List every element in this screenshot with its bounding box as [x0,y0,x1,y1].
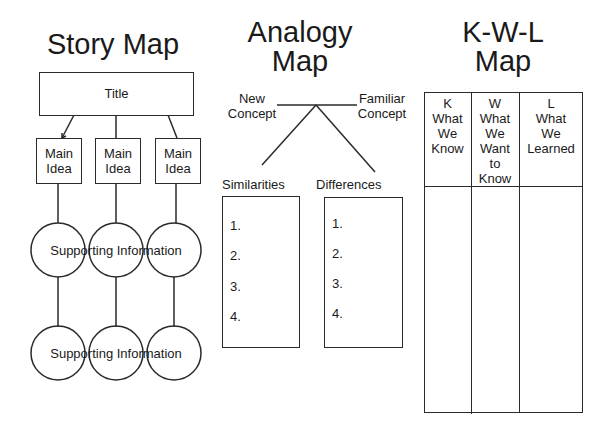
analogy-map-heading-2: Map [230,47,370,76]
kwl-column-w: W What We Want to Know [471,96,519,186]
main-idea-box-1: Main Idea [36,138,82,184]
main-idea-label: Main Idea [96,146,140,176]
similarity-item-4: 4. [230,309,241,324]
similarity-item-3: 3. [230,279,241,294]
difference-item-4: 4. [332,306,343,321]
kwl-k-letter: K [424,96,471,111]
kwl-map-heading-2: Map [433,47,573,76]
kwl-map-heading-1: K-W-L [433,18,573,47]
differences-label: Differences [316,177,396,192]
kwl-w-letter: W [471,96,519,111]
supporting-info-row-1: Supporting Information [30,243,202,258]
kwl-column-l: L What We Learned [519,96,583,156]
similarity-item-2: 2. [230,248,241,263]
main-idea-box-3: Main Idea [155,138,201,184]
kwl-header-divider [424,186,583,187]
story-map-heading: Story Map [18,30,208,59]
similarities-label: Similarities [222,177,302,192]
supporting-info-row-2: Supporting Information [30,346,202,361]
difference-item-3: 3. [332,276,343,291]
kwl-k-text: What We Know [424,111,471,156]
kwl-w-text: What We Want to Know [471,111,519,186]
difference-item-1: 1. [332,216,343,231]
new-concept-label: New Concept [222,91,282,121]
differences-box: 1. 2. 3. 4. [324,197,403,348]
kwl-l-letter: L [519,96,583,111]
similarity-item-1: 1. [230,218,241,233]
familiar-concept-label: Familiar Concept [352,91,412,121]
difference-item-2: 2. [332,246,343,261]
similarities-box: 1. 2. 3. 4. [222,196,300,348]
kwl-column-k: K What We Know [424,96,471,156]
story-title-box: Title [39,72,194,116]
analogy-map-heading-1: Analogy [230,18,370,47]
kwl-l-text: What We Learned [519,111,583,156]
main-idea-label: Main Idea [37,146,81,176]
main-idea-label: Main Idea [156,146,200,176]
main-idea-box-2: Main Idea [95,138,141,184]
story-title-label: Title [40,86,193,101]
